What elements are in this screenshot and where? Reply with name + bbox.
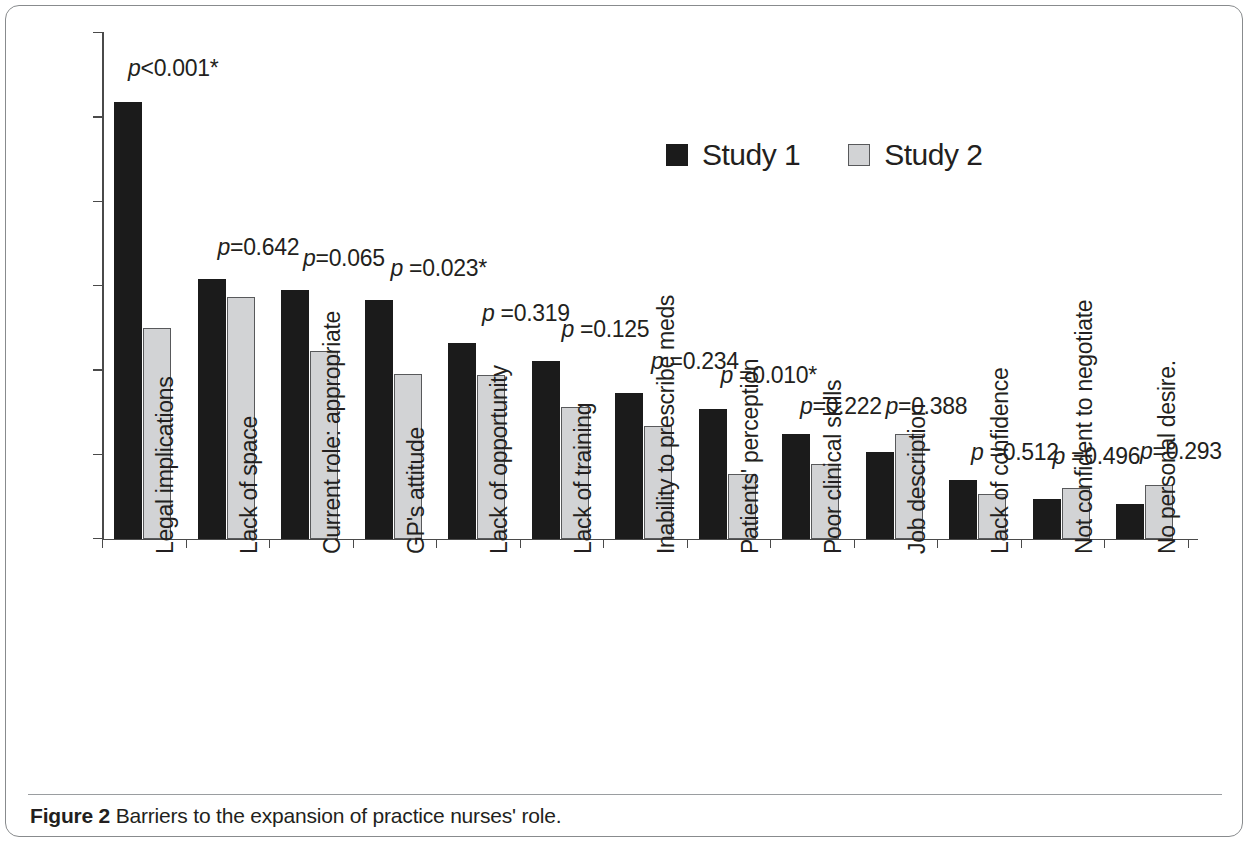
bar-study-1 [198,279,226,539]
x-axis-category-label: Lack of space [236,416,263,554]
y-axis-tick [93,201,102,202]
bar-study-1 [532,361,560,539]
figure-frame: 0%10%20%30%40%50%60% p<0.001*p=0.642p=0.… [5,5,1243,837]
x-axis-category-label: Current role: appropriate [319,311,346,554]
x-axis-category-label: Lack of training [570,403,597,554]
x-axis-category-label: Lack of confidence [987,368,1014,554]
figure-caption-text: Barriers to the expansion of practice nu… [116,804,562,827]
figure-caption: Figure 2 Barriers to the expansion of pr… [30,804,1210,828]
pvalue-label: p<0.001* [128,55,218,82]
y-axis-tick [93,538,102,539]
x-axis-tick [854,539,855,548]
y-axis-tick [93,369,102,370]
x-axis-tick [1021,539,1022,548]
y-axis-tick [93,116,102,117]
y-axis-line [102,32,104,540]
x-axis-tick [687,539,688,548]
bar-study-1 [615,393,643,539]
figure-caption-label: Figure 2 [30,804,110,827]
bar-study-1 [866,452,894,539]
bar-study-1 [699,409,727,539]
x-axis-tick [436,539,437,548]
x-axis-category-label: Patients' perception [737,359,764,554]
legend-item-study-1: Study 1 [666,138,800,172]
x-axis-tick [770,539,771,548]
bar-study-1 [1116,504,1144,539]
x-axis-tick [186,539,187,548]
x-axis-category-label: Legal implications [152,377,179,554]
x-axis-tick [937,539,938,548]
chart-legend: Study 1 Study 2 [666,138,982,172]
pvalue-label: p =0.125 [562,316,650,343]
x-axis-category-label: GP's attitude [403,427,430,554]
x-axis-tick [353,539,354,548]
y-axis-tick [93,285,102,286]
x-axis-category-label: Not confident to negotiate [1071,300,1098,554]
x-axis-tick [520,539,521,548]
pvalue-label: p =0.023* [391,255,487,282]
x-axis-category-label: Poor clinical skills [820,380,847,554]
x-axis-category-label: Job description [904,404,931,554]
bar-study-1 [448,343,476,539]
bar-study-1 [281,290,309,539]
pvalue-label: p=0.642 [218,234,300,261]
y-axis-tick [93,32,102,33]
legend-swatch-icon-study-2 [848,144,870,166]
bar-study-1 [365,300,393,539]
x-axis-tick [102,539,103,548]
pvalue-label: p =0.319 [482,300,570,327]
pvalue-label: p =0.512 [971,439,1059,466]
x-axis-tick [1104,539,1105,548]
x-axis-tick [269,539,270,548]
bar-study-1 [1033,499,1061,539]
pvalue-label: p=0.065 [303,245,385,272]
x-axis-category-label: Lack of opportunity [486,365,513,554]
x-axis-category-label: No personal desire. [1154,360,1181,554]
legend-label-study-2: Study 2 [884,138,982,172]
bar-study-1 [114,102,142,539]
x-axis-tick [1188,539,1189,548]
bar-chart: 0%10%20%30%40%50%60% p<0.001*p=0.642p=0.… [6,6,1244,791]
caption-divider [28,794,1222,795]
legend-label-study-1: Study 1 [702,138,800,172]
bar-study-1 [949,480,977,539]
legend-item-study-2: Study 2 [848,138,982,172]
pvalue-label: p =0.010* [721,362,817,389]
bar-study-1 [782,434,810,539]
y-axis-tick [93,454,102,455]
x-axis-category-label: Inability to prescribe meds [653,295,680,554]
legend-swatch-icon-study-1 [666,144,688,166]
x-axis-tick [603,539,604,548]
